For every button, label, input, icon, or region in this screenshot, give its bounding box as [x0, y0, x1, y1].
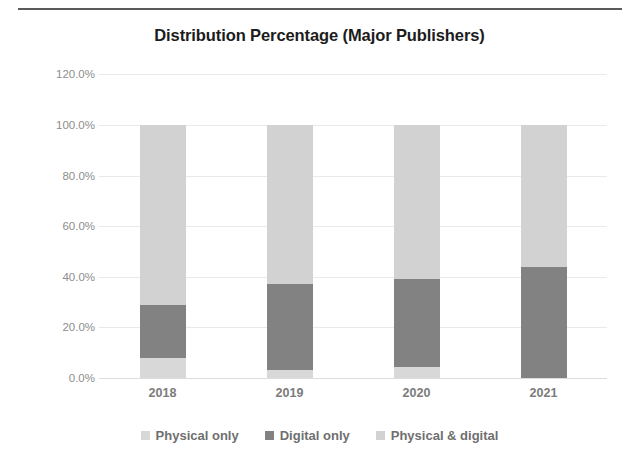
y-axis-tick-label: 80.0%: [9, 170, 95, 182]
y-axis-tick-label: 0.0%: [9, 372, 95, 384]
bar-slot-2020: [353, 125, 480, 378]
x-axis-tick-label: 2019: [226, 386, 353, 400]
legend-swatch-icon: [265, 431, 274, 440]
stacked-bar[interactable]: [140, 125, 186, 378]
y-axis-tick-label: 120.0%: [9, 68, 95, 80]
bar-segment[interactable]: [521, 125, 567, 267]
gridline: [99, 74, 607, 75]
bar-segment[interactable]: [394, 279, 440, 366]
legend-swatch-icon: [376, 431, 385, 440]
bar-slot-2021: [480, 125, 607, 378]
bar-segment[interactable]: [140, 125, 186, 305]
bar-segment[interactable]: [267, 284, 313, 370]
x-axis-tick-label: 2021: [480, 386, 607, 400]
legend-label: Physical only: [156, 428, 239, 443]
legend-item[interactable]: Physical only: [141, 428, 239, 443]
bar-segment[interactable]: [394, 125, 440, 279]
legend-label: Digital only: [280, 428, 350, 443]
y-axis-tick-label: 60.0%: [9, 220, 95, 232]
y-axis: 120.0%100.0%80.0%60.0%40.0%20.0%0.0%: [0, 0, 95, 472]
stacked-bar[interactable]: [394, 125, 440, 378]
bar-slot-2018: [99, 125, 226, 378]
bar-segment[interactable]: [267, 370, 313, 378]
x-axis-labels: 2018201920202021: [99, 386, 607, 400]
chart-plot-wrapper: 120.0%100.0%80.0%60.0%40.0%20.0%0.0% 201…: [0, 0, 639, 472]
bar-segment[interactable]: [140, 358, 186, 378]
stacked-bar[interactable]: [521, 125, 567, 378]
x-axis-line: [99, 378, 607, 379]
y-axis-tick-label: 20.0%: [9, 321, 95, 333]
legend-swatch-icon: [141, 431, 150, 440]
legend-item[interactable]: Physical & digital: [376, 428, 499, 443]
bar-segment[interactable]: [140, 305, 186, 358]
chart-legend: Physical onlyDigital onlyPhysical & digi…: [0, 428, 639, 443]
bar-slot-2019: [226, 125, 353, 378]
stacked-bar[interactable]: [267, 125, 313, 378]
legend-label: Physical & digital: [391, 428, 499, 443]
bars-container: [99, 125, 607, 378]
y-axis-tick-label: 100.0%: [9, 119, 95, 131]
bar-segment[interactable]: [521, 267, 567, 378]
bar-segment[interactable]: [394, 367, 440, 378]
x-axis-tick-label: 2018: [99, 386, 226, 400]
bar-segment[interactable]: [267, 125, 313, 284]
x-axis-tick-label: 2020: [353, 386, 480, 400]
legend-item[interactable]: Digital only: [265, 428, 350, 443]
y-axis-tick-label: 40.0%: [9, 271, 95, 283]
